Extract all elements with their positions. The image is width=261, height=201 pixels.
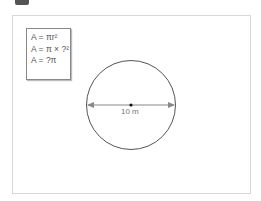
circle-diagram [0,0,261,201]
arrow-right-icon [168,102,175,108]
diameter-label: 10 m [121,107,139,116]
arrow-left-icon [87,102,94,108]
